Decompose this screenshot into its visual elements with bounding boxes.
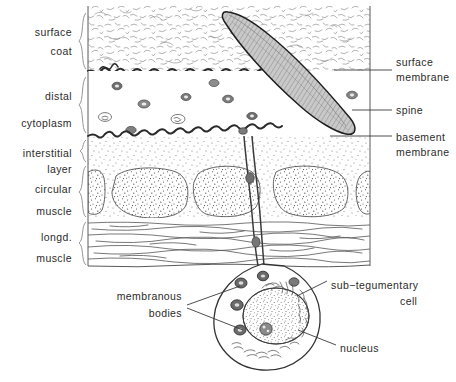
label-distal-cytoplasm-line2: cytoplasm [21,117,72,129]
label-longd-muscle-line1: longd. [41,231,72,243]
label-circular-muscle-line2: muscle [36,205,72,217]
label-basement-membrane-line2: membrane [396,146,449,158]
label-surface-membrane-line1: surface [396,56,433,68]
label-membranous-bodies-line2: bodies [149,307,182,319]
layer-longd-muscle [88,218,370,267]
label-basement-membrane-line1: basement [396,131,445,143]
layer-interstitial [88,136,370,165]
label-membranous-bodies-line1: membranous [117,290,182,302]
label-distal-cytoplasm-line1: distal [45,90,72,102]
label-spine-text: spine [396,104,423,116]
tegument-diagram: surface coat distal cytoplasm interstiti… [0,0,456,382]
layer-circular-muscle [88,165,372,218]
label-surface-coat-line2: coat [51,45,72,57]
label-sub-tegumentary-cell-line2: cell [400,295,417,307]
circular-muscle-cells [88,166,372,218]
label-sub-tegumentary-cell-line1: sub−tegumentary [331,279,419,291]
label-surface-membrane-line2: membrane [396,71,449,83]
label-nucleus: nucleus [340,342,379,354]
label-interstitial-layer-line1: interstitial [23,147,72,159]
label-spine: spine [396,104,423,116]
label-nucleus-text: nucleus [340,342,379,354]
label-interstitial-layer-line2: layer [47,163,72,175]
label-circular-muscle-line1: circular [35,183,72,195]
label-surface-coat-line1: surface [35,26,72,38]
label-longd-muscle-line2: muscle [36,252,72,264]
